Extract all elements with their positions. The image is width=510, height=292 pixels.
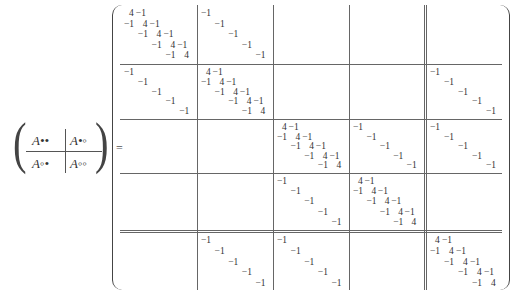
matrix-entry: −1	[458, 267, 468, 277]
matrix-entry: −1	[486, 106, 496, 116]
matrix-entry: −1	[458, 87, 468, 97]
matrix-entry: −1	[138, 77, 148, 87]
matrix-entry: −1	[456, 246, 466, 256]
matrix-entry: −1	[165, 50, 175, 60]
matrix-entry: −1	[289, 122, 299, 132]
matrix-entry: −1	[201, 235, 211, 245]
matrix-entry: −1	[472, 96, 482, 106]
matrix-entry: −1	[353, 122, 363, 132]
matrix-entry: −1	[444, 77, 454, 87]
matrix-entry: 4	[143, 19, 148, 29]
block-row-divider	[120, 173, 502, 174]
matrix-entry: −1	[393, 151, 403, 161]
matrix-entry: 4	[247, 96, 252, 106]
matrix-entry: −1	[391, 196, 401, 206]
matrix-entry: 4	[491, 278, 496, 288]
block-row-divider	[120, 232, 502, 233]
matrix-entry: −1	[442, 235, 452, 245]
matrix-entry: 4	[371, 186, 376, 196]
matrix-entry: −1	[318, 207, 328, 217]
matrix-entry: −1	[215, 87, 225, 97]
matrix-entry: −1	[242, 106, 252, 116]
matrix-entry: −1	[277, 132, 287, 142]
matrix-entry: 4	[282, 122, 287, 132]
matrix-entry: −1	[470, 257, 480, 267]
matrix-entry: −1	[366, 196, 376, 206]
matrix-entry: −1	[277, 235, 287, 245]
matrix-entry: −1	[472, 278, 482, 288]
matrix-entry: 4	[435, 235, 440, 245]
matrix-entry: −1	[380, 207, 390, 217]
matrix-entry: −1	[364, 176, 374, 186]
matrix-entry: −1	[430, 246, 440, 256]
matrix-entry: −1	[228, 257, 238, 267]
matrix-entry: −1	[242, 267, 252, 277]
matrix-entry: −1	[378, 186, 388, 196]
matrix-entry: −1	[329, 151, 339, 161]
matrix-entry: −1	[255, 50, 265, 60]
matrix-entry: 4	[398, 207, 403, 217]
matrix-entry: −1	[177, 40, 187, 50]
matrix-entry: 4	[385, 196, 390, 206]
matrix-entry: −1	[242, 40, 252, 50]
matrix-entry: −1	[366, 132, 376, 142]
matrix-entry: 4	[323, 151, 328, 161]
matrix-entry: −1	[302, 132, 312, 142]
matrix-entry: −1	[405, 207, 415, 217]
matrix-entry: −1	[226, 77, 236, 87]
block-divider-horizontal	[26, 151, 102, 152]
right-paren: )	[95, 114, 109, 172]
matrix-entry: −1	[444, 132, 454, 142]
matrix-entry: 4	[309, 141, 314, 151]
matrix-entry: 4	[129, 8, 134, 18]
block-matrix-lhs: ( A•• A•◦ A◦• A◦◦ )	[10, 120, 110, 180]
matrix-entry: −1	[240, 87, 250, 97]
matrix-entry: 4	[463, 257, 468, 267]
block-row-divider	[120, 64, 502, 65]
matrix-entry: −1	[201, 77, 211, 87]
matrix-entry: −1	[318, 267, 328, 277]
matrix-entry: −1	[215, 19, 225, 29]
matrix-entry: 4	[449, 246, 454, 256]
block-column-divider	[349, 5, 350, 290]
matrix-entry: 4	[157, 29, 162, 39]
matrix-entry: −1	[458, 141, 468, 151]
matrix-entry: 4	[220, 77, 225, 87]
matrix-entry: −1	[472, 151, 482, 161]
matrix-entry: −1	[228, 29, 238, 39]
block-column-divider	[426, 5, 427, 290]
matrix-entry: −1	[291, 186, 301, 196]
matrix-entry: −1	[380, 141, 390, 151]
left-paren: (	[13, 114, 27, 172]
matrix-entry: −1	[124, 19, 134, 29]
matrix-entry: −1	[152, 40, 162, 50]
matrix-entry: −1	[444, 257, 454, 267]
matrix-entry: −1	[304, 151, 314, 161]
matrix-entry: −1	[277, 176, 287, 186]
matrix-entry: −1	[291, 141, 301, 151]
matrix-entry: −1	[179, 106, 189, 116]
matrix-entry: 4	[477, 267, 482, 277]
matrix-entry: −1	[486, 160, 496, 170]
matrix-entry: −1	[253, 96, 263, 106]
matrix-entry: −1	[228, 96, 238, 106]
block-row-divider	[120, 119, 502, 120]
matrix-entry: 4	[412, 217, 417, 227]
full-matrix: 4−1−14−1−14−1−14−1−14−1−1−1−1−1−1−1−1−1−…	[120, 5, 502, 290]
matrix-entry: −1	[331, 278, 341, 288]
matrix-entry: 4	[170, 40, 175, 50]
matrix-entry: 4	[206, 67, 211, 77]
matrix-entry: −1	[318, 160, 328, 170]
matrix-entry: −1	[484, 267, 494, 277]
matrix-entry: −1	[124, 67, 134, 77]
matrix-entry: −1	[152, 87, 162, 97]
matrix-entry: −1	[213, 67, 223, 77]
matrix-entry: 4	[358, 176, 363, 186]
block-row-divider	[120, 230, 502, 231]
matrix-entry: −1	[430, 67, 440, 77]
matrix-entry: −1	[138, 29, 148, 39]
matrix-entry: −1	[304, 257, 314, 267]
matrix-entry: 4	[296, 132, 301, 142]
block-column-divider	[424, 5, 425, 290]
matrix-entry: −1	[331, 217, 341, 227]
